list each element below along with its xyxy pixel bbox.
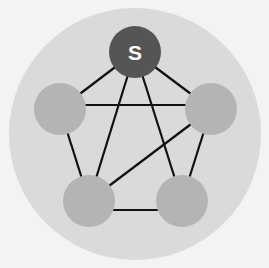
node-bottom-right [156, 175, 208, 227]
node-label-s: S [128, 41, 142, 64]
node-bottom-left [63, 175, 115, 227]
node-left [34, 83, 86, 135]
network-diagram: S [0, 0, 269, 268]
node-circle-left [34, 83, 86, 135]
node-circle-right [185, 83, 237, 135]
node-circle-bottom-left [63, 175, 115, 227]
node-right [185, 83, 237, 135]
node-s: S [109, 26, 161, 78]
node-circle-bottom-right [156, 175, 208, 227]
